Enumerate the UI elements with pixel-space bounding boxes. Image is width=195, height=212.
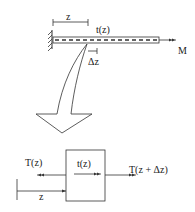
z-dimension-label-bottom: z <box>39 191 44 202</box>
left-torque-label: T(z) <box>25 157 42 169</box>
distributed-torque-label-bottom: t(z) <box>77 158 91 170</box>
delta-z-label: Δz <box>88 56 99 67</box>
fixed-wall <box>48 30 52 51</box>
delta-z-dimension <box>88 48 97 54</box>
shaft-torsion-diagram: M z t(z) Δz T(z) t(z) T(z + Δz) z <box>0 0 195 212</box>
distributed-torque-label-top: t(z) <box>96 24 110 36</box>
z-dimension-top <box>53 19 88 26</box>
applied-moment-label: M <box>178 45 187 56</box>
shaft <box>53 37 159 43</box>
zoom-in-arrow-icon <box>36 44 92 133</box>
z-dimension-label-top: z <box>66 11 71 22</box>
right-torque-label: T(z + Δz) <box>129 164 168 176</box>
